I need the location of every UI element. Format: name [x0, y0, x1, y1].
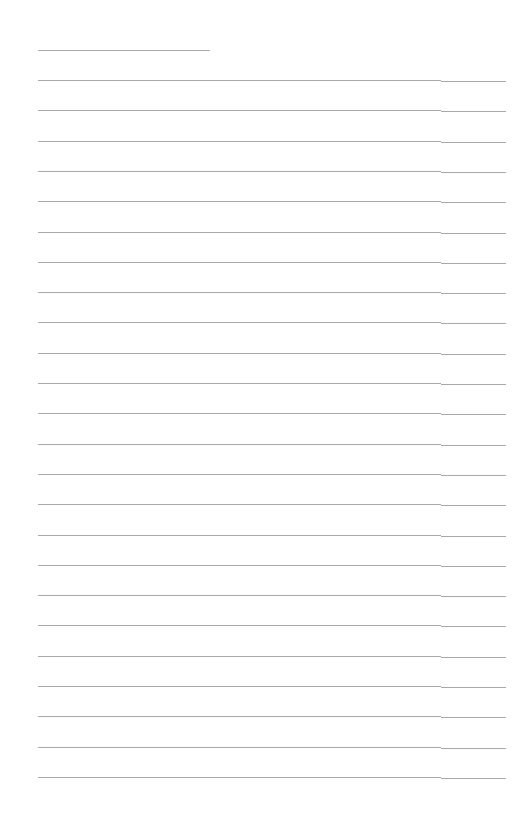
ruled-line-right-segment	[441, 354, 506, 355]
ruled-line	[38, 535, 441, 536]
ruled-line	[38, 565, 441, 566]
ruled-line-right-segment	[441, 111, 506, 112]
ruled-line	[38, 625, 441, 626]
ruled-line-right-segment	[441, 475, 506, 476]
ruled-line	[38, 141, 441, 142]
ruled-line	[38, 262, 441, 263]
ruled-line	[38, 444, 441, 445]
ruled-line	[38, 504, 441, 505]
ruled-line	[38, 595, 441, 596]
ruled-line	[38, 110, 441, 111]
ruled-page	[0, 0, 518, 830]
ruled-line-right-segment	[441, 596, 506, 597]
ruled-line-right-segment	[441, 566, 506, 567]
ruled-line	[38, 686, 441, 687]
ruled-line-right-segment	[441, 505, 506, 506]
ruled-line-right-segment	[441, 748, 506, 749]
ruled-line-right-segment	[441, 323, 506, 324]
ruled-line	[38, 353, 441, 354]
ruled-line-right-segment	[441, 293, 506, 294]
ruled-line	[38, 716, 441, 717]
ruled-line-right-segment	[441, 202, 506, 203]
ruled-line	[38, 383, 441, 384]
ruled-line	[38, 777, 441, 778]
ruled-line-right-segment	[441, 626, 506, 627]
ruled-line-right-segment	[441, 687, 506, 688]
name-line	[38, 50, 210, 51]
ruled-line-right-segment	[441, 717, 506, 718]
ruled-line	[38, 747, 441, 748]
ruled-line	[38, 413, 441, 414]
ruled-line-right-segment	[441, 263, 506, 264]
ruled-line	[38, 656, 441, 657]
ruled-line	[38, 232, 441, 233]
ruled-line	[38, 171, 441, 172]
ruled-line-right-segment	[441, 384, 506, 385]
ruled-line-right-segment	[441, 142, 506, 143]
ruled-line	[38, 80, 441, 81]
ruled-line-right-segment	[441, 657, 506, 658]
ruled-line	[38, 292, 441, 293]
ruled-line-right-segment	[441, 536, 506, 537]
ruled-line-right-segment	[441, 81, 506, 82]
ruled-line	[38, 474, 441, 475]
ruled-line-right-segment	[441, 445, 506, 446]
ruled-line-right-segment	[441, 172, 506, 173]
ruled-line	[38, 201, 441, 202]
ruled-line-right-segment	[441, 414, 506, 415]
ruled-line-right-segment	[441, 233, 506, 234]
ruled-line	[38, 322, 441, 323]
ruled-line-right-segment	[441, 778, 506, 779]
